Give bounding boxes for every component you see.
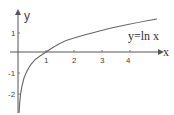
x-axis-label: x [163,45,169,59]
y-tick-label-m1: -1 [8,69,16,78]
y-tick-label-m2: -2 [8,90,16,99]
ln-chart: y x y=ln x 1 2 3 4 1 -1 -2 [0,0,174,115]
x-tick-label-2: 2 [72,56,77,65]
x-tick-label-1: 1 [44,56,49,65]
x-tick-label-4: 4 [126,56,131,65]
y-axis-label: y [24,9,30,23]
x-tick-label-3: 3 [100,56,105,65]
curve-label: y=ln x [128,29,159,43]
y-tick-label-1: 1 [11,29,16,38]
y-axis-arrow-icon [15,9,21,15]
